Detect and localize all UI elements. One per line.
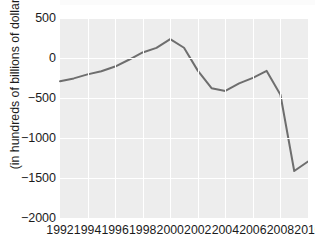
plot-top-edge (60, 0, 315, 5)
gridline-horizontal (60, 58, 308, 59)
gridline-vertical (308, 18, 309, 218)
x-axis-tick-label: 2010 (294, 224, 315, 236)
gridline-vertical (225, 18, 226, 218)
gridline-vertical (198, 18, 199, 218)
x-axis-tick-label: 1998 (129, 224, 156, 236)
x-axis-tick-label: 2000 (157, 224, 184, 236)
gridline-vertical (253, 18, 254, 218)
x-axis-tick-label: 2008 (267, 224, 294, 236)
x-axis-tick-label: 2002 (184, 224, 211, 236)
line-chart: 5000−500−1000−1500−2000 1992199419961998… (0, 0, 315, 245)
gridline-horizontal (60, 178, 308, 179)
x-axis-tick-label: 2006 (239, 224, 266, 236)
x-axis-tick-label: 1992 (46, 224, 73, 236)
gridline-vertical (143, 18, 144, 218)
plot-area (60, 18, 308, 218)
y-axis-title: (in hundreds of billions of dollars) (8, 0, 22, 179)
x-axis-tick-label: 2004 (212, 224, 239, 236)
x-axis-tick-label: 1996 (101, 224, 128, 236)
gridline-horizontal (60, 18, 308, 19)
gridline-horizontal (60, 98, 308, 99)
x-axis-tick-label: 1994 (74, 224, 101, 236)
gridline-vertical (88, 18, 89, 218)
series-line-federal-budget-balance (60, 18, 308, 218)
gridline-vertical (280, 18, 281, 218)
gridline-vertical (115, 18, 116, 218)
gridline-vertical (170, 18, 171, 218)
gridline-horizontal (60, 138, 308, 139)
